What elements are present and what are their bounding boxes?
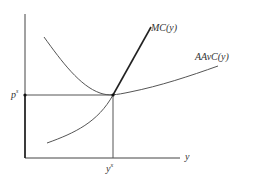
- quantity-label-superscript: x: [110, 162, 113, 168]
- aavc-curve: [44, 37, 218, 95]
- mc-curve-upper-supply: [113, 27, 151, 95]
- mc-curve-lower: [47, 95, 113, 143]
- price-axis-point: [23, 93, 26, 96]
- price-label: ps: [11, 89, 18, 100]
- equilibrium-point: [111, 93, 114, 96]
- mc-curve-label: MC(y): [151, 23, 177, 33]
- quantity-label: yx: [106, 163, 113, 174]
- cost-curve-diagram: MC(y) AAvC(y) ps yx y: [0, 0, 255, 178]
- x-axis-label-text: y: [185, 151, 189, 162]
- aavc-curve-label: AAvC(y): [195, 52, 229, 62]
- x-axis-label: y: [185, 152, 189, 162]
- mc-label-text: MC(y): [151, 22, 177, 33]
- price-label-superscript: s: [16, 88, 18, 94]
- diagram-canvas: [0, 0, 255, 178]
- aavc-label-text: AAvC(y): [195, 51, 229, 62]
